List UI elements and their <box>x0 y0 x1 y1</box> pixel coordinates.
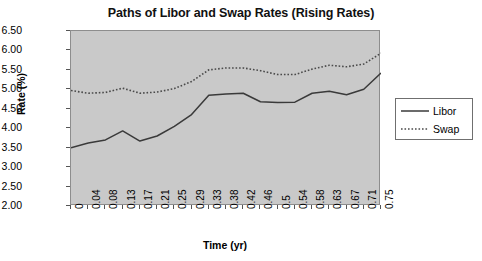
x-tick-mark <box>139 205 140 209</box>
x-tick-label: 0.21 <box>160 190 171 209</box>
x-tick-mark <box>259 205 260 209</box>
x-tick-label: 0 <box>74 203 85 209</box>
x-tick-label: 0.13 <box>126 190 137 209</box>
x-tick-mark <box>346 205 347 209</box>
x-tick-mark <box>208 205 209 209</box>
x-tick-label: 0.04 <box>91 190 102 209</box>
legend-key-solid-line-icon <box>400 106 430 116</box>
x-tick-label: 0.25 <box>177 190 188 209</box>
x-tick-label: 0.08 <box>108 190 119 209</box>
x-tick-mark <box>311 205 312 209</box>
x-axis-title: Time (yr) <box>70 239 380 251</box>
legend-item-libor: Libor <box>400 102 468 120</box>
x-tick-mark <box>173 205 174 209</box>
chart-figure: Paths of Libor and Swap Rates (Rising Ra… <box>0 0 482 261</box>
x-tick-mark <box>191 205 192 209</box>
legend-key-dotted-line-icon <box>400 124 430 134</box>
x-tick-label: 0.75 <box>384 190 395 209</box>
x-tick-mark <box>156 205 157 209</box>
x-tick-label: 0.46 <box>263 190 274 209</box>
x-tick-mark <box>328 205 329 209</box>
legend-label-swap: Swap <box>433 123 459 135</box>
x-tick-label: 0.42 <box>246 190 257 209</box>
legend-label-libor: Libor <box>433 105 456 117</box>
x-tick-mark <box>380 205 381 209</box>
x-tick-mark <box>277 205 278 209</box>
x-tick-label: 0.58 <box>315 190 326 209</box>
x-tick-label: 0.33 <box>212 190 223 209</box>
x-tick-mark <box>104 205 105 209</box>
legend-item-swap: Swap <box>400 120 468 138</box>
x-tick-label: 0.71 <box>367 190 378 209</box>
x-tick-mark <box>87 205 88 209</box>
x-tick-mark <box>363 205 364 209</box>
x-tick-label: 0.54 <box>298 190 309 209</box>
x-tick-label: 0.38 <box>229 190 240 209</box>
x-tick-label: 0.5 <box>281 195 292 209</box>
x-tick-mark <box>225 205 226 209</box>
x-tick-mark <box>70 205 71 209</box>
x-tick-mark <box>122 205 123 209</box>
x-tick-mark <box>294 205 295 209</box>
x-tick-label: 0.67 <box>350 190 361 209</box>
x-tick-mark <box>242 205 243 209</box>
chart-legend: Libor Swap <box>395 98 473 140</box>
x-tick-label: 0.63 <box>332 190 343 209</box>
x-tick-label: 0.29 <box>195 190 206 209</box>
x-tick-label: 0.17 <box>143 190 154 209</box>
